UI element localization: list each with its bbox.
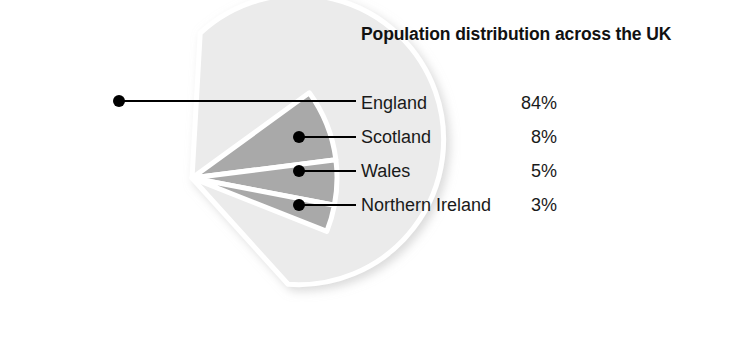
legend-label-scotland: Scotland [361, 120, 505, 154]
legend-value-scotland: 8% [505, 120, 557, 154]
legend-value-england: 84% [505, 86, 557, 120]
pie-chart-figure: Population distribution across the UK En… [0, 0, 749, 349]
legend-label-wales: Wales [361, 154, 505, 188]
legend-label-england: England [361, 86, 505, 120]
legend-row-scotland: Scotland 8% [361, 120, 557, 154]
leader-dot-northern-ireland [293, 199, 305, 211]
legend-row-england: England 84% [361, 86, 557, 120]
chart-title: Population distribution across the UK [361, 24, 671, 45]
legend-value-wales: 5% [505, 154, 557, 188]
leader-dot-england [113, 95, 125, 107]
pie-legend: England 84% Scotland 8% Wales 5% Norther… [361, 86, 557, 222]
leader-dot-scotland [293, 131, 305, 143]
legend-label-northern-ireland: Northern Ireland [361, 188, 505, 222]
leader-dot-wales [293, 165, 305, 177]
legend-row-northern-ireland: Northern Ireland 3% [361, 188, 557, 222]
legend-row-wales: Wales 5% [361, 154, 557, 188]
legend-value-northern-ireland: 3% [505, 188, 557, 222]
